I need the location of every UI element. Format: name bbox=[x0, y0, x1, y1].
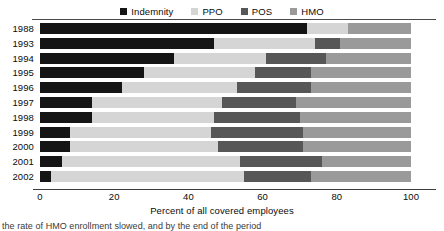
bar-segment-pos[interactable] bbox=[266, 53, 325, 64]
legend-item-indemnity[interactable]: Indemnity bbox=[120, 7, 173, 17]
bar-row[interactable] bbox=[40, 38, 411, 49]
legend-item-label: HMO bbox=[301, 7, 323, 17]
y-axis-tick-label: 1997 bbox=[12, 97, 34, 108]
bar-segment-ppo[interactable] bbox=[70, 141, 218, 152]
bar-segment-indemnity[interactable] bbox=[40, 171, 51, 182]
bar-segment-hmo[interactable] bbox=[322, 156, 411, 167]
y-axis-tick-label: 1994 bbox=[12, 53, 34, 64]
bar-segment-hmo[interactable] bbox=[340, 38, 410, 49]
bar-segment-indemnity[interactable] bbox=[40, 53, 174, 64]
plot-area bbox=[40, 21, 411, 184]
legend-swatch-icon bbox=[191, 8, 198, 15]
y-axis-tick-labels: 1988199319941995199619971998199920002001… bbox=[0, 21, 37, 184]
bar-segment-ppo[interactable] bbox=[92, 112, 214, 123]
bar-segment-indemnity[interactable] bbox=[40, 38, 214, 49]
x-axis-tick-label: 80 bbox=[331, 191, 342, 202]
bar-row[interactable] bbox=[40, 171, 411, 182]
y-axis-tick-label: 1995 bbox=[12, 67, 34, 78]
bar-segment-hmo[interactable] bbox=[303, 141, 411, 152]
y-axis-tick-label: 1996 bbox=[12, 82, 34, 93]
y-axis-tick-label: 2001 bbox=[12, 156, 34, 167]
bar-segment-indemnity[interactable] bbox=[40, 82, 122, 93]
legend-item-label: POS bbox=[252, 7, 272, 17]
bar-segment-pos[interactable] bbox=[255, 67, 311, 78]
bar-segment-pos[interactable] bbox=[222, 97, 296, 108]
bar-segment-hmo[interactable] bbox=[300, 112, 411, 123]
bar-row[interactable] bbox=[40, 67, 411, 78]
legend-swatch-icon bbox=[290, 8, 297, 15]
bar-segment-hmo[interactable] bbox=[311, 171, 411, 182]
bar-segment-pos[interactable] bbox=[211, 127, 304, 138]
bar-segment-hmo[interactable] bbox=[311, 82, 411, 93]
bar-segment-pos[interactable] bbox=[315, 38, 341, 49]
bar-segment-indemnity[interactable] bbox=[40, 23, 307, 34]
legend-item-hmo[interactable]: HMO bbox=[290, 7, 323, 17]
bar-segment-indemnity[interactable] bbox=[40, 127, 70, 138]
bar-segment-pos[interactable] bbox=[237, 82, 311, 93]
bar-segment-hmo[interactable] bbox=[303, 127, 411, 138]
figure-footnote: the rate of HMO enrollment slowed, and b… bbox=[2, 221, 442, 231]
y-axis-tick-label: 2000 bbox=[12, 141, 34, 152]
bar-row[interactable] bbox=[40, 82, 411, 93]
x-axis-tick-label: 40 bbox=[183, 191, 194, 202]
bar-segment-indemnity[interactable] bbox=[40, 156, 62, 167]
x-axis-tick-label: 100 bbox=[403, 191, 419, 202]
bar-segment-indemnity[interactable] bbox=[40, 67, 144, 78]
bar-segment-ppo[interactable] bbox=[122, 82, 237, 93]
bar-segment-hmo[interactable] bbox=[326, 53, 411, 64]
bar-segment-ppo[interactable] bbox=[214, 38, 314, 49]
legend-swatch-icon bbox=[241, 8, 248, 15]
x-axis-tick-label: 20 bbox=[109, 191, 120, 202]
bar-segment-pos[interactable] bbox=[218, 141, 303, 152]
bar-segment-ppo[interactable] bbox=[70, 127, 211, 138]
stacked-bar-chart: IndemnityPPOPOSHMO 198819931994199519961… bbox=[0, 0, 444, 231]
y-axis-tick-label: 2002 bbox=[12, 171, 34, 182]
y-axis-tick-label: 1998 bbox=[12, 112, 34, 123]
bar-segment-hmo[interactable] bbox=[348, 23, 411, 34]
bar-segment-indemnity[interactable] bbox=[40, 112, 92, 123]
bar-segment-indemnity[interactable] bbox=[40, 97, 92, 108]
bar-segment-hmo[interactable] bbox=[311, 67, 411, 78]
bar-row[interactable] bbox=[40, 53, 411, 64]
bar-segment-pos[interactable] bbox=[240, 156, 322, 167]
bar-row[interactable] bbox=[40, 23, 411, 34]
bar-segment-indemnity[interactable] bbox=[40, 141, 70, 152]
x-axis-tick-label: 60 bbox=[257, 191, 268, 202]
chart-legend: IndemnityPPOPOSHMO bbox=[0, 4, 444, 19]
x-axis-tick-labels: 020406080100 bbox=[40, 191, 411, 205]
y-axis-tick-label: 1988 bbox=[12, 23, 34, 34]
legend-item-label: Indemnity bbox=[131, 7, 173, 17]
legend-item-label: PPO bbox=[202, 7, 222, 17]
bar-segment-ppo[interactable] bbox=[62, 156, 240, 167]
bar-segment-ppo[interactable] bbox=[51, 171, 244, 182]
x-axis-line bbox=[33, 189, 436, 190]
y-axis-tick-label: 1999 bbox=[12, 127, 34, 138]
bar-row[interactable] bbox=[40, 127, 411, 138]
x-axis-tick-label: 0 bbox=[37, 191, 42, 202]
bar-segment-ppo[interactable] bbox=[174, 53, 267, 64]
bar-segment-hmo[interactable] bbox=[296, 97, 411, 108]
bar-segment-pos[interactable] bbox=[244, 171, 311, 182]
bar-row[interactable] bbox=[40, 141, 411, 152]
bar-segment-ppo[interactable] bbox=[92, 97, 222, 108]
legend-item-pos[interactable]: POS bbox=[241, 7, 272, 17]
bar-row[interactable] bbox=[40, 112, 411, 123]
legend-swatch-icon bbox=[120, 8, 127, 15]
bar-row[interactable] bbox=[40, 97, 411, 108]
x-axis-title: Percent of all covered employees bbox=[0, 205, 444, 216]
bar-row[interactable] bbox=[40, 156, 411, 167]
bar-segment-pos[interactable] bbox=[214, 112, 299, 123]
y-axis-tick-label: 1993 bbox=[12, 38, 34, 49]
legend-divider-rule bbox=[32, 19, 436, 20]
bar-segment-ppo[interactable] bbox=[144, 67, 255, 78]
legend-item-ppo[interactable]: PPO bbox=[191, 7, 222, 17]
bar-segment-ppo[interactable] bbox=[307, 23, 348, 34]
